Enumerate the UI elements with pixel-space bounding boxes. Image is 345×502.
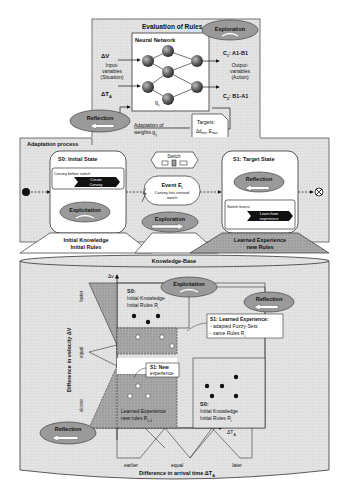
s1-target-state: S1: Target State Reflection Switch learn… (222, 151, 298, 233)
learned-fuzzy-band (117, 328, 177, 354)
reflection-badge-kb-lower: Reflection (40, 422, 96, 444)
y-axis-label: Difference in velocity ΔV (66, 327, 72, 392)
svg-text:Learn from: Learn from (260, 212, 278, 216)
svg-text:- adapted Fuzzy-Sets: - adapted Fuzzy-Sets (210, 323, 258, 329)
svg-text:Learned Experience: Learned Experience (121, 408, 166, 414)
exploration-badge-top: Exploration (202, 20, 258, 40)
knowledge-base-cylinder: Knowledge-Base Δv ΔTA S0: Initial Knowle… (20, 255, 329, 479)
svg-text:Switch: Switch (167, 154, 181, 159)
x-tick-earlier: earlier (124, 462, 138, 468)
svg-text:S0:: S0: (200, 401, 209, 407)
svg-text:S1: Target State: S1: Target State (233, 156, 274, 162)
x-tick-later: later (232, 462, 242, 468)
knowledge-base-title: Knowledge-Base (152, 258, 196, 264)
input-label: (Situation) (101, 74, 124, 80)
node-icon (142, 81, 154, 93)
node-icon (162, 66, 174, 78)
svg-text:Convey before switch: Convey before switch (54, 172, 90, 176)
svg-text:Initial Knowledge: Initial Knowledge (127, 295, 165, 301)
node-icon (142, 55, 154, 67)
evaluation-title: Evaluation of Rules (142, 23, 203, 30)
reflection-badge-kb-upper: Reflection (244, 292, 294, 312)
exploration-badge-center: Exploration (142, 212, 198, 232)
svg-text:Learned Experience: Learned Experience (234, 237, 286, 243)
svg-text:Reflection: Reflection (87, 115, 114, 121)
learn-from-experience-action: Learn from experience (247, 211, 293, 221)
svg-text:Exploration: Exploration (155, 216, 186, 222)
svg-text:Initial Rules: Initial Rules (71, 244, 102, 250)
svg-text:Convey has crossed: Convey has crossed (155, 191, 189, 195)
reflection-badge-top: Reflection (70, 110, 130, 132)
svg-text:experience: experience (260, 217, 279, 221)
create-convey-action: Create Convey (74, 177, 120, 187)
svg-text:Create: Create (90, 178, 101, 182)
svg-text:Initial Knowledge: Initial Knowledge (63, 237, 108, 243)
node-icon (191, 55, 203, 67)
svg-text:Reflection: Reflection (55, 426, 82, 432)
svg-text:Exploitation: Exploitation (173, 281, 205, 287)
database-icon (172, 160, 176, 166)
svg-text:experience: experience (150, 371, 174, 376)
svg-text:S1: Learned Experience:: S1: Learned Experience: (210, 316, 269, 322)
svg-text:Convey: Convey (90, 183, 103, 187)
svg-text:Reflection: Reflection (246, 176, 273, 182)
svg-text:S0:: S0: (127, 288, 136, 294)
svg-text:S0: Initial State: S0: Initial State (58, 156, 97, 162)
node-icon (191, 81, 203, 93)
svg-text:S1: New: S1: New (150, 365, 169, 370)
adaptation-label: Adaptation of (134, 122, 164, 128)
svg-text:Targets:: Targets: (197, 119, 215, 125)
y-tick-equal: equal (79, 347, 84, 358)
y-axis-symbol: Δv (108, 273, 114, 279)
evaluation-of-rules-panel: Evaluation of Rules Neural Network (70, 19, 260, 145)
s0-initial-state: S0: Initial State Convey before switch C… (50, 151, 126, 233)
svg-text:Reflection: Reflection (256, 296, 283, 302)
svg-text:Switch learns: Switch learns (227, 205, 250, 209)
neural-network-box: Neural Network gij (132, 33, 209, 111)
x-tick-equal: equal (171, 462, 183, 468)
svg-text:Exploitation: Exploitation (69, 207, 101, 213)
adaptation-title: Adaptation process (27, 141, 78, 147)
neural-network-title: Neural Network (135, 37, 176, 43)
svg-text:switch: switch (167, 196, 178, 200)
event-box: Event Ei Convey has crossed switch (142, 176, 200, 205)
input-dv-label: ΔV (101, 53, 109, 59)
svg-text:new Rules: new Rules (246, 244, 273, 250)
svg-text:Exploration: Exploration (215, 26, 246, 32)
node-icon (162, 45, 174, 57)
adaptation-process-panel: Adaptation process S0: Initial State Con… (20, 137, 329, 242)
switch-box: Switch (151, 152, 198, 168)
output-label: (Action) (231, 74, 249, 80)
end-node-icon (315, 188, 323, 196)
knowledge-projections: Initial Knowledge Initial Rules Learned … (20, 233, 329, 253)
exploitation-badge-kb: Exploitation (161, 277, 217, 297)
y-tick-slower: slower (79, 398, 84, 412)
start-node-icon (22, 188, 30, 196)
rule-learning-diagram: Evaluation of Rules Neural Network (0, 0, 345, 502)
targets-box: Targets: Δdmin, Emax (192, 114, 228, 140)
node-icon (162, 93, 174, 105)
y-tick-faster: faster (79, 290, 84, 302)
svg-text:Initial Knowledge: Initial Knowledge (200, 408, 238, 414)
